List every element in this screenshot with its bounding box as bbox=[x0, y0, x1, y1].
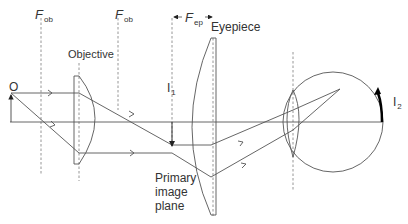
image-2-arrow bbox=[378, 93, 382, 122]
image-2-arrowhead-icon bbox=[374, 87, 381, 95]
ray-arrow-icon bbox=[238, 141, 243, 146]
object-label: O bbox=[9, 81, 18, 93]
f-ob-left-label: Fob bbox=[35, 8, 53, 24]
f-ep-label: Fep bbox=[185, 11, 203, 27]
ray-2 bbox=[11, 89, 340, 177]
image-1-label: I1 bbox=[167, 82, 176, 97]
objective-label: Objective bbox=[68, 49, 114, 60]
f-ob-right-label: Fob bbox=[115, 8, 133, 24]
microscope-ray-diagram bbox=[0, 0, 408, 224]
eyepiece-label: Eyepiece bbox=[211, 21, 260, 33]
ray-arrow-icon bbox=[241, 163, 246, 168]
image-2-label: I2 bbox=[393, 96, 402, 111]
ray-arrow-icon bbox=[129, 111, 134, 117]
primary-image-plane-label: Primary image plane bbox=[155, 171, 196, 213]
